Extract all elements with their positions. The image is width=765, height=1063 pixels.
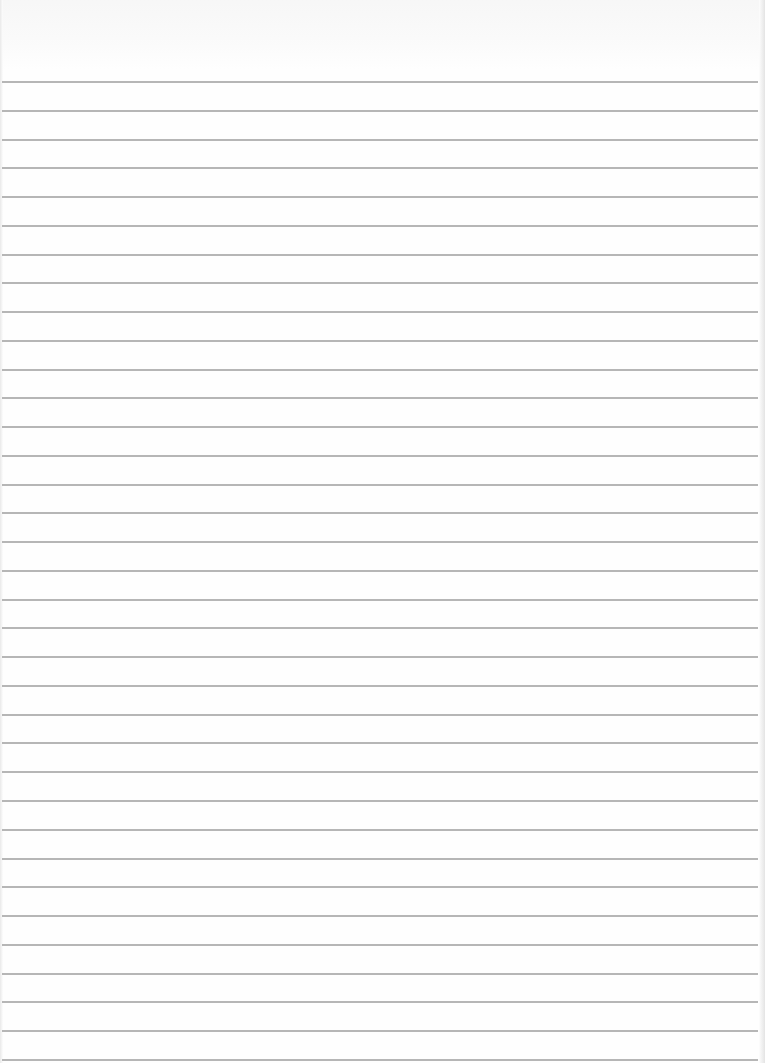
ruled-line	[2, 1030, 758, 1032]
ruled-line	[2, 1059, 758, 1061]
ruled-line	[2, 886, 758, 888]
ruled-line	[2, 656, 758, 658]
ruled-line	[2, 196, 758, 198]
ruled-line	[2, 426, 758, 428]
ruled-line	[2, 397, 758, 399]
ruled-line	[2, 599, 758, 601]
ruled-line	[2, 944, 758, 946]
ruled-line	[2, 771, 758, 773]
ruled-line	[2, 1001, 758, 1003]
ruled-line	[2, 455, 758, 457]
ruled-line	[2, 858, 758, 860]
ruled-line	[2, 541, 758, 543]
ruled-line	[2, 829, 758, 831]
ruled-line	[2, 915, 758, 917]
ruled-line	[2, 282, 758, 284]
left-page-edge	[0, 0, 3, 1063]
right-page-edge-shadow	[759, 0, 765, 1063]
ruled-line	[2, 139, 758, 141]
ruled-line	[2, 340, 758, 342]
ruled-line	[2, 714, 758, 716]
ruled-line	[2, 311, 758, 313]
ruled-line	[2, 512, 758, 514]
ruled-line	[2, 973, 758, 975]
ruled-line	[2, 484, 758, 486]
ruled-line	[2, 81, 758, 83]
lined-paper-sheet	[0, 0, 765, 1063]
ruled-line	[2, 800, 758, 802]
ruled-line	[2, 627, 758, 629]
ruled-line	[2, 254, 758, 256]
faint-bleed-through-area	[0, 0, 765, 70]
ruled-line	[2, 685, 758, 687]
ruled-line	[2, 110, 758, 112]
ruled-line	[2, 167, 758, 169]
ruled-line	[2, 742, 758, 744]
ruled-line	[2, 225, 758, 227]
ruled-line	[2, 369, 758, 371]
ruled-line	[2, 570, 758, 572]
